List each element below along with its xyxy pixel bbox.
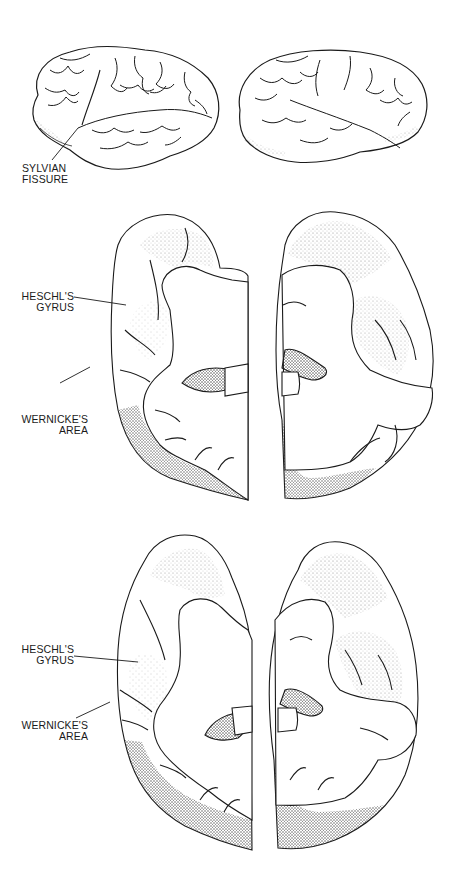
label-line: GYRUS	[8, 655, 74, 666]
label-line: GYRUS	[8, 302, 74, 313]
label-heschls-gyrus-upper: HESCHL'S GYRUS	[8, 291, 74, 313]
label-wernickes-area-upper: WERNICKE'S AREA	[8, 414, 88, 436]
left-section-lower	[74, 535, 252, 850]
label-wernickes-area-lower: WERNICKE'S AREA	[8, 720, 88, 742]
left-section-upper	[60, 215, 248, 500]
label-line: AREA	[8, 731, 88, 742]
label-heschls-gyrus-lower: HESCHL'S GYRUS	[8, 644, 74, 666]
right-section-upper	[276, 212, 433, 499]
label-sylvian-fissure: SYLVIAN FISSURE	[22, 163, 68, 185]
label-line: AREA	[8, 425, 88, 436]
right-section-lower	[269, 542, 418, 849]
brain-anatomy-figure	[0, 0, 459, 887]
label-line: FISSURE	[22, 174, 68, 185]
left-hemisphere-lateral-view	[33, 47, 219, 170]
right-hemisphere-lateral-view	[239, 50, 427, 162]
